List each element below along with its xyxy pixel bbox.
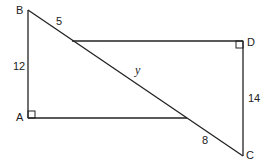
right-angle-marker-A <box>28 111 35 118</box>
length-label-B-intersection: 5 <box>56 16 62 27</box>
length-label-DC: 14 <box>248 93 260 104</box>
point-label-D: D <box>247 37 255 48</box>
right-angle-marker-D <box>236 41 243 48</box>
variable-label-y: y <box>135 64 140 76</box>
point-label-A: A <box>16 112 23 123</box>
diagram-canvas <box>0 0 272 167</box>
point-label-B: B <box>16 5 23 16</box>
point-label-C: C <box>246 150 254 161</box>
length-label-intersection-C: 8 <box>202 135 208 146</box>
segment-BC <box>28 10 243 156</box>
length-label-AB: 12 <box>13 61 25 72</box>
